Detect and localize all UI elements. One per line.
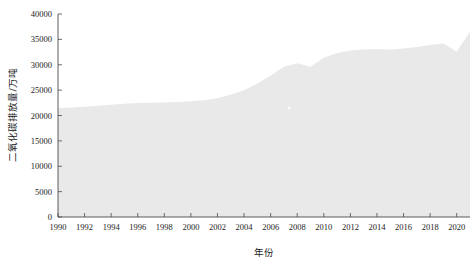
x-tick-label: 2004: [236, 222, 254, 232]
x-tick-label: 2010: [315, 222, 332, 232]
x-tick-label: 2000: [182, 222, 199, 232]
x-axis-title: 年份: [254, 247, 274, 258]
y-tick-label: 35000: [31, 34, 52, 44]
y-tick-label: 20000: [31, 111, 52, 121]
y-axis-title: 二氧化碳排放量/万吨: [7, 68, 18, 161]
x-tick-label: 2014: [368, 222, 386, 232]
y-tick-label: 30000: [31, 60, 52, 70]
x-tick-label: 2012: [342, 222, 359, 232]
x-tick-label: 2002: [209, 222, 226, 232]
x-tick-label: 1994: [103, 222, 121, 232]
x-tick-label: 2018: [422, 222, 439, 232]
y-tick-label: 10000: [31, 161, 52, 171]
x-tick-label: 2020: [448, 222, 465, 232]
x-tick-label: 2006: [262, 222, 279, 232]
y-tick-label: 0: [48, 212, 52, 222]
x-tick-label: 2008: [289, 222, 306, 232]
y-axis-ticks: 0500010000150002000025000300003500040000: [31, 9, 62, 222]
co2-emissions-area-chart: 0500010000150002000025000300003500040000…: [0, 0, 476, 264]
y-tick-label: 15000: [31, 136, 52, 146]
y-tick-label: 5000: [35, 187, 52, 197]
x-tick-label: 1990: [50, 222, 67, 232]
chart-container: 0500010000150002000025000300003500040000…: [0, 0, 476, 264]
x-tick-label: 1996: [129, 222, 146, 232]
x-tick-label: 2016: [395, 222, 412, 232]
y-tick-label: 25000: [31, 85, 52, 95]
speckle-artifact: [288, 107, 291, 110]
y-tick-label: 40000: [31, 9, 52, 19]
x-tick-label: 1992: [76, 222, 93, 232]
x-tick-label: 1998: [156, 222, 173, 232]
